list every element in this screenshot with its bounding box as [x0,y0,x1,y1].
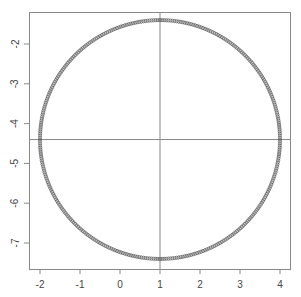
data-point [203,249,206,252]
circle-plot: -2-101234 -2-3-4-5-6-7 [0,0,301,297]
data-point [197,251,200,254]
data-point [45,99,48,102]
data-point [201,26,204,29]
y-tick-label: -5 [10,159,21,168]
data-point [273,103,276,106]
data-point [44,173,47,176]
data-point [46,181,49,184]
data-point [271,179,274,182]
data-point [113,27,116,30]
x-tick-label: 0 [117,279,123,290]
y-axis: -2-3-4-5-6-7 [10,39,30,247]
data-point [44,175,47,178]
data-point [45,177,48,180]
data-point [115,249,118,252]
data-point [46,179,49,182]
data-point [272,177,275,180]
data-point [46,95,49,98]
x-tick-label: -1 [76,279,85,290]
data-point [270,95,273,98]
data-point [119,25,122,28]
x-tick-label: 3 [237,279,243,290]
data-point [115,26,118,29]
reference-lines [29,12,290,269]
y-tick-label: -3 [10,79,21,88]
data-point [121,24,124,27]
x-tick-label: 1 [157,279,163,290]
data-point [117,250,120,253]
data-point [195,251,198,254]
data-point [203,27,206,30]
data-point [199,26,202,29]
data-point [46,97,49,100]
data-point [119,251,122,254]
y-tick-label: -7 [10,238,21,247]
y-tick-label: -4 [10,119,21,128]
y-tick-label: -6 [10,198,21,207]
data-point [271,97,274,100]
data-point [273,101,276,104]
x-tick-label: 2 [197,279,203,290]
x-tick-label: -2 [36,279,45,290]
y-tick-label: -2 [10,39,21,48]
data-point [270,181,273,184]
data-point [117,26,120,29]
data-point [113,249,116,252]
data-point [272,99,275,102]
data-point [197,25,200,28]
x-tick-label: 4 [277,279,283,290]
data-point [201,249,204,252]
data-point [273,175,276,178]
data-point [44,101,47,104]
data-point [199,250,202,253]
data-point [278,140,281,143]
x-axis: -2-101234 [36,269,284,290]
